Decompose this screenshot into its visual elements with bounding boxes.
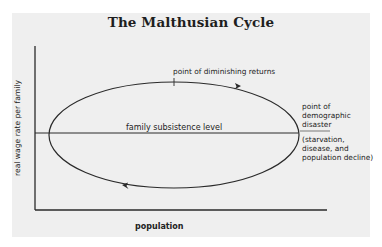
- disaster-detail-2: disease, and: [302, 144, 349, 153]
- y-axis-label: real wage rate per family: [13, 80, 22, 176]
- disaster-detail-3: population decline): [302, 153, 373, 162]
- disaster-label-1: point of: [302, 102, 330, 111]
- arrow-right-icon: [235, 83, 242, 90]
- malthusian-cycle-ellipse: [49, 82, 299, 188]
- disaster-detail-1: (starvation,: [302, 135, 345, 144]
- diminishing-returns-label: point of diminishing returns: [173, 67, 275, 76]
- disaster-label-3: disaster: [302, 120, 331, 129]
- disaster-label-2: demographic: [302, 111, 351, 120]
- x-axis-label: population: [135, 222, 184, 231]
- subsistence-level-label: family subsistence level: [126, 123, 222, 132]
